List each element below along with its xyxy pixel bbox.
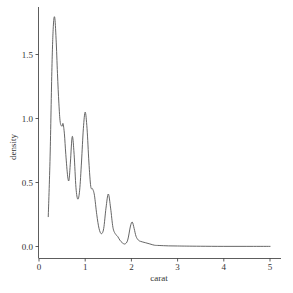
x-tick-label: 4 (222, 262, 227, 272)
x-tick-label: 5 (268, 262, 273, 272)
density-curve (48, 17, 270, 247)
y-tick-label: 0.0 (22, 242, 34, 252)
density-plot: 0.00.51.01.5 012345 carat density (0, 0, 293, 293)
y-tick-label: 1.0 (22, 114, 34, 124)
x-tick-label: 2 (129, 262, 134, 272)
x-axis-ticks: 012345 (37, 259, 273, 273)
plot-area: 0.00.51.01.5 012345 (22, 7, 281, 272)
x-tick-label: 1 (83, 262, 88, 272)
y-tick-label: 1.5 (22, 50, 34, 60)
x-tick-label: 3 (175, 262, 180, 272)
y-axis-ticks: 0.00.51.01.5 (22, 50, 39, 252)
x-axis-title: carat (150, 273, 168, 283)
y-tick-label: 0.5 (22, 178, 34, 188)
x-tick-label: 0 (37, 262, 42, 272)
y-axis-title: density (8, 134, 18, 160)
